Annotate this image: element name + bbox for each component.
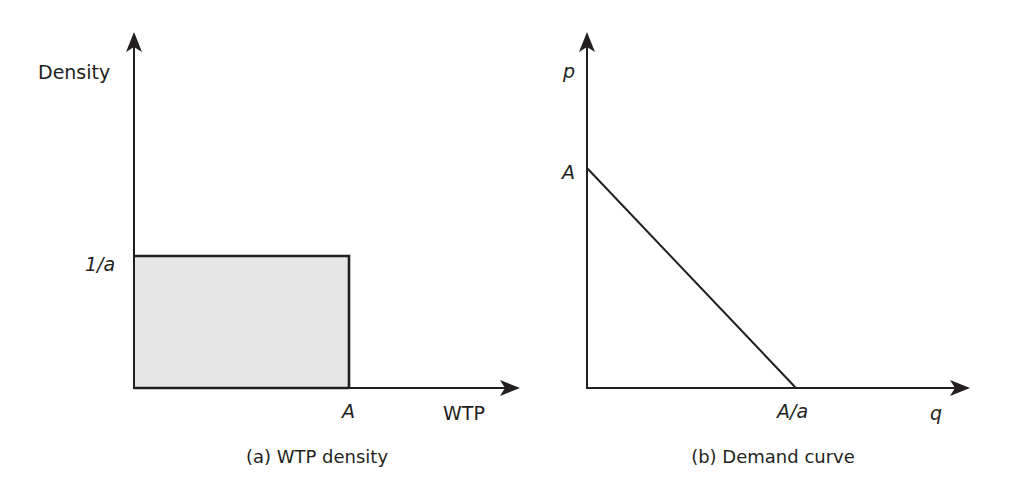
x-axis-label-q: q xyxy=(930,404,942,423)
caption-a: (a) WTP density xyxy=(246,448,388,466)
demand-line xyxy=(587,168,796,388)
y-axis-label-p: p xyxy=(563,62,575,81)
x-tick-A-over-a: A/a xyxy=(777,402,808,421)
panel-a-wtp-density xyxy=(133,34,518,389)
y-tick-A: A xyxy=(562,163,575,182)
figure-canvas xyxy=(0,0,1011,493)
y-tick-one-over-a: 1/a xyxy=(85,255,115,274)
x-tick-A: A xyxy=(342,402,355,421)
panel-b-demand-curve xyxy=(586,34,968,389)
x-axis-label-wtp: WTP xyxy=(443,404,485,423)
caption-b: (b) Demand curve xyxy=(691,448,855,466)
y-axis-label-density: Density xyxy=(38,63,110,82)
density-shaded-region xyxy=(134,256,349,388)
